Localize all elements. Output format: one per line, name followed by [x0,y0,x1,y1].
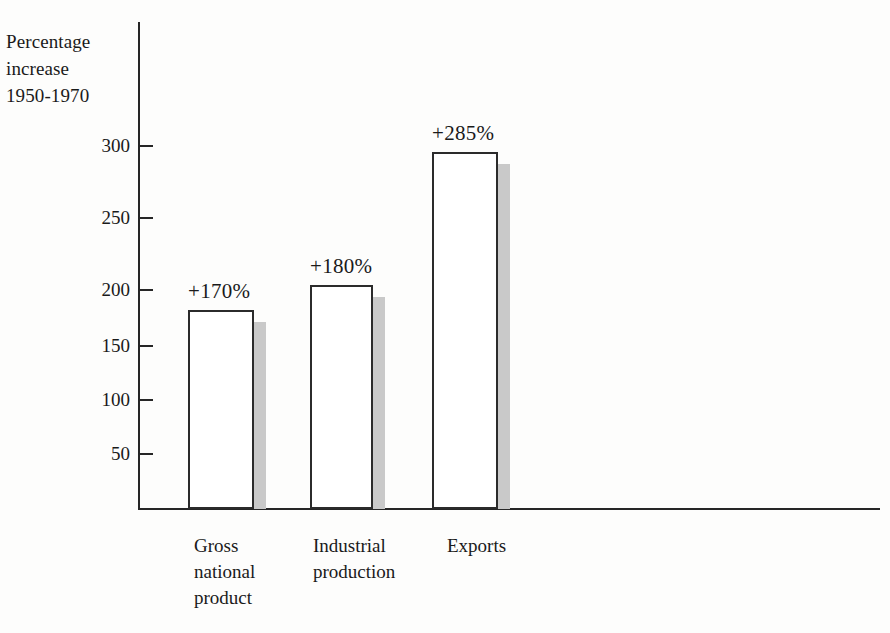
category-label-gnp-line-2: national [194,559,255,585]
y-axis-line [138,22,140,510]
category-label-exports: Exports [447,533,506,559]
y-axis-title-line-1: Percentage [6,28,90,55]
category-label-gnp-line-3: product [194,585,255,611]
scan-artifact-left: · [168,0,174,8]
bar-value-gross-national-product: +170% [188,281,250,302]
y-axis-title: Percentage increase 1950-1970 [6,28,90,109]
category-label-gnp-line-1: Gross [194,533,255,559]
y-tick-label-200-wrap: 200 [68,280,130,299]
bar-industrial-production[interactable] [310,285,373,509]
y-tick-50 [140,453,153,455]
y-tick-label-100: 100 [68,390,130,409]
bar-value-industrial-production: +180% [310,256,372,277]
bar-shadow-industrial-production [372,297,385,509]
y-axis-title-line-3: 1950-1970 [6,82,90,109]
y-tick-label-150: 150 [68,336,130,355]
y-tick-label-150-wrap: 150 [68,336,130,355]
y-tick-100 [140,399,153,401]
category-label-exports-line-1: Exports [447,533,506,559]
y-tick-label-50: 50 [68,444,130,463]
y-tick-label-250-wrap: 250 [68,208,130,227]
bar-gross-national-product[interactable] [188,310,254,509]
category-label-industrial-production: Industrial production [313,533,395,585]
y-tick-label-300: 300 [68,136,130,155]
y-tick-200 [140,289,153,291]
bar-shadow-gross-national-product [253,322,266,509]
y-axis-title-line-2: increase [6,55,90,82]
y-tick-label-100-wrap: 100 [68,390,130,409]
y-tick-150 [140,345,153,347]
y-tick-label-200: 200 [68,280,130,299]
y-tick-label-250: 250 [68,208,130,227]
y-tick-250 [140,217,153,219]
y-tick-300 [140,145,153,147]
category-label-gross-national-product: Gross national product [194,533,255,611]
bar-exports[interactable] [432,152,498,509]
bar-chart: · · Percentage increase 1950-1970 300 25… [0,0,890,633]
bar-shadow-exports [497,164,510,509]
category-label-ip-line-2: production [313,559,395,585]
scan-artifact-right: · [648,0,654,8]
bar-value-exports: +285% [432,123,494,144]
category-label-ip-line-1: Industrial [313,533,395,559]
y-tick-label-300-wrap: 300 [68,136,130,155]
y-tick-label-50-wrap: 50 [68,444,130,463]
